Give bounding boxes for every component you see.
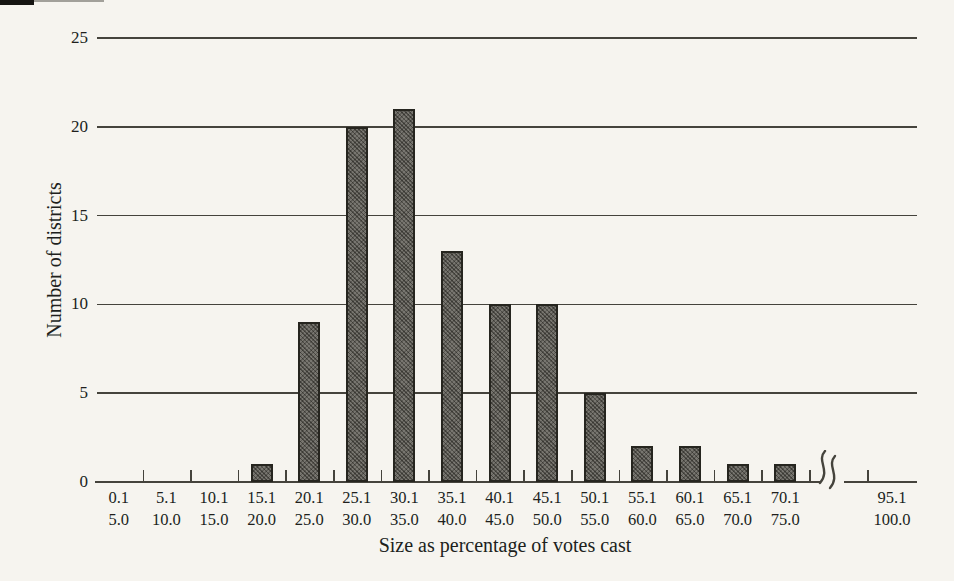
bar-55.1-60.0 (631, 446, 653, 482)
x-tick-11 (619, 470, 621, 482)
x-tick-1 (143, 470, 145, 482)
x-tick-10 (571, 470, 573, 482)
bar-15.1-20.0 (251, 464, 273, 482)
y-tick-label-20: 20 (28, 116, 88, 138)
bin-label-line1: 70.1 (753, 487, 817, 509)
bar-25.1-30.0 (346, 127, 368, 482)
bar-40.1-45.0 (489, 304, 511, 482)
x-axis-title: Size as percentage of votes cast (95, 534, 915, 557)
bar-30.1-35.0 (393, 109, 415, 482)
x-tick-2 (190, 470, 192, 482)
bar-70.1-75.0 (774, 464, 796, 482)
bin-label-95.1-100.0: 95.1100.0 (860, 487, 924, 530)
x-tick-6 (381, 470, 383, 482)
bar-20.1-25.0 (298, 322, 320, 482)
gridline-20 (97, 126, 917, 128)
x-tick-13 (714, 470, 716, 482)
x-tick-8 (476, 470, 478, 482)
x-tick-9 (523, 470, 525, 482)
x-tick-12 (666, 470, 668, 482)
x-tick-after-break (867, 470, 869, 482)
x-tick-4 (285, 470, 287, 482)
y-tick-label-25: 25 (28, 27, 88, 49)
bar-35.1-40.0 (441, 251, 463, 482)
y-tick-label-15: 15 (28, 205, 88, 227)
bar-50.1-55.0 (584, 393, 606, 482)
bin-label-line2: 75.0 (753, 509, 817, 531)
gridline-25 (97, 37, 917, 39)
y-tick-label-5: 5 (28, 382, 88, 404)
x-tick-7 (428, 470, 430, 482)
axis-break-icon (811, 450, 845, 494)
bar-65.1-70.0 (727, 464, 749, 482)
bin-label-70.1-75.0: 70.175.0 (753, 487, 817, 530)
bin-label-line2: 100.0 (860, 509, 924, 531)
bar-45.1-50.0 (536, 304, 558, 482)
bar-60.1-65.0 (679, 446, 701, 482)
x-axis-segment-right (844, 481, 917, 483)
y-tick-label-10: 10 (28, 293, 88, 315)
x-tick-14 (761, 470, 763, 482)
x-tick-5 (333, 470, 335, 482)
scan-artifact (0, 0, 34, 5)
bin-label-line1: 95.1 (860, 487, 924, 509)
gridline-15 (97, 215, 917, 217)
y-tick-label-0: 0 (28, 471, 88, 493)
x-tick-3 (238, 470, 240, 482)
histogram-figure: Number of districts 05101520250.15.05.11… (0, 0, 954, 581)
scan-artifact-faint (34, 0, 104, 2)
